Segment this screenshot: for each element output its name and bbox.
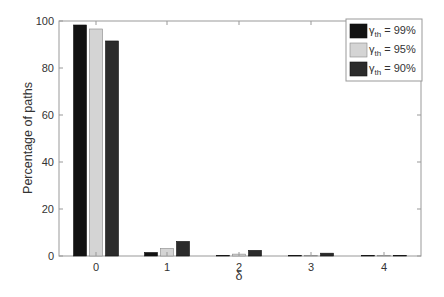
x-tick-label: 0 xyxy=(93,261,99,273)
legend-swatch xyxy=(350,62,367,76)
y-tick-label: 60 xyxy=(42,109,54,121)
y-tick-label: 0 xyxy=(48,250,54,262)
legend-swatch xyxy=(350,43,367,57)
bar-3-series-0 xyxy=(289,255,302,256)
y-tick-label: 40 xyxy=(42,156,54,168)
y-tick-label: 20 xyxy=(42,203,54,215)
bar-2-series-2 xyxy=(249,250,262,256)
legend: γth = 99%γth = 95%γth = 90% xyxy=(346,19,422,81)
x-tick-label: 1 xyxy=(164,261,170,273)
bar-3-series-2 xyxy=(321,253,334,256)
bar-0-series-1 xyxy=(90,29,103,256)
x-axis-label: δ xyxy=(236,269,243,283)
y-tick-label: 100 xyxy=(36,15,54,27)
x-tick-label: 4 xyxy=(381,261,387,273)
legend-swatch xyxy=(350,24,367,38)
bar-1-series-2 xyxy=(177,241,190,256)
bar-4-series-0 xyxy=(362,255,375,256)
bar-0-series-0 xyxy=(74,25,87,256)
y-tick-label: 80 xyxy=(42,62,54,74)
bar-1-series-0 xyxy=(145,252,158,256)
x-tick-label: 3 xyxy=(308,261,314,273)
bar-4-series-2 xyxy=(394,255,407,256)
y-axis-label: Percentage of paths xyxy=(21,82,35,194)
bar-0-series-2 xyxy=(106,41,119,256)
bar-chart: 020406080100 01234 Percentage of paths δ… xyxy=(0,0,444,297)
bar-2-series-0 xyxy=(217,255,230,256)
